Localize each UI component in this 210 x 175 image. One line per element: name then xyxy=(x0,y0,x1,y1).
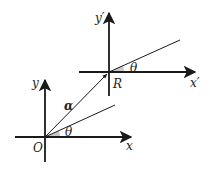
theta-label-original: θ xyxy=(65,125,73,139)
x-prime-axis-label: x′ xyxy=(190,76,200,90)
origin-label-R: R xyxy=(112,77,122,91)
y-axis-label: y xyxy=(31,76,39,90)
theta-line-translated xyxy=(109,40,180,72)
coordinate-translation-diagram: O x y θ α R x′ y′ θ xyxy=(0,0,210,175)
translation-vector: α xyxy=(45,74,107,137)
theta-line-original xyxy=(45,105,115,137)
theta-label-translated: θ xyxy=(130,61,138,75)
origin-label-O: O xyxy=(33,141,43,155)
alpha-label: α xyxy=(64,99,73,113)
y-prime-axis-label: y′ xyxy=(94,11,105,25)
x-axis-label: x xyxy=(126,139,133,153)
translated-frame: R x′ y′ θ xyxy=(79,11,200,96)
alpha-vector xyxy=(45,74,107,137)
